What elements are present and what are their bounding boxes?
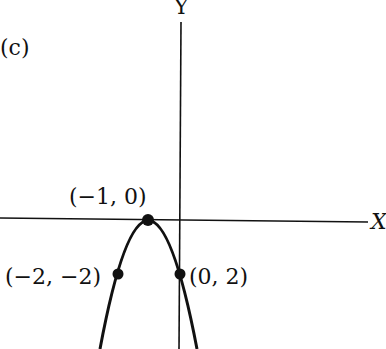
plot-canvas — [0, 0, 386, 349]
y-axis — [179, 22, 181, 349]
point-left — [113, 269, 124, 280]
panel-label: (c) — [0, 37, 30, 59]
point-right — [175, 269, 186, 280]
x-axis-label: X — [371, 211, 386, 233]
vertex-label: (−1, 0) — [69, 186, 147, 208]
right-point-label: (0, 2) — [189, 266, 248, 288]
parabola-curve — [100, 221, 197, 349]
parabola-figure: Y X (c) (−1, 0) (−2, −2) (0, 2) — [0, 0, 386, 349]
y-axis-label: Y — [174, 0, 189, 18]
x-axis — [0, 218, 368, 222]
left-point-label: (−2, −2) — [5, 266, 101, 288]
point-vertex — [142, 214, 154, 226]
